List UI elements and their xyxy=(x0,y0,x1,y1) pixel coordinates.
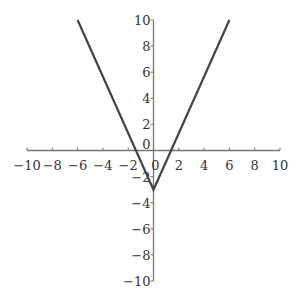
y-tick-label: −4 xyxy=(131,196,150,211)
y-tick-label: −8 xyxy=(131,248,150,263)
y-tick-label: 2 xyxy=(142,117,150,132)
x-tick-label: −6 xyxy=(68,158,87,173)
x-tick-label: 6 xyxy=(225,158,233,173)
x-tick-label: 2 xyxy=(175,158,183,173)
y-tick-label: −10 xyxy=(123,274,150,289)
x-tick-label: −4 xyxy=(93,158,112,173)
y-tick-label: −6 xyxy=(131,222,150,237)
x-tick-label: −8 xyxy=(43,158,62,173)
chart: −10−8−6−4−20246810−10−8−6−4−22468100 xyxy=(0,0,301,307)
x-tick-label: 8 xyxy=(251,158,259,173)
y-tick-label: 4 xyxy=(142,91,150,106)
y-tick-label: 6 xyxy=(142,65,150,80)
y-tick-label: 8 xyxy=(142,39,150,54)
x-tick-label: 4 xyxy=(200,158,208,173)
y-tick-label: 10 xyxy=(134,13,151,28)
y-tick-label: 0 xyxy=(142,137,150,152)
x-tick-label: −10 xyxy=(13,158,40,173)
x-tick-label: 0 xyxy=(151,158,159,173)
x-tick-label: 10 xyxy=(272,158,289,173)
